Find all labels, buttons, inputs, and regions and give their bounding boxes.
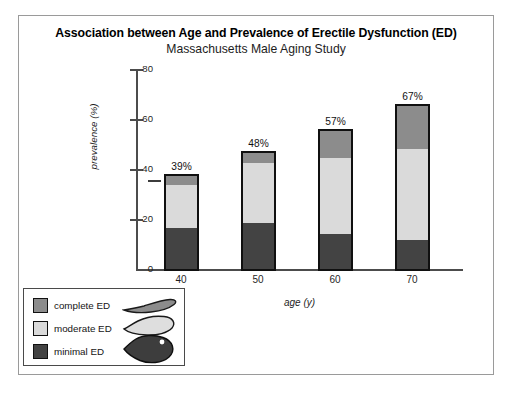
- x-axis-label-50: 50: [228, 274, 288, 285]
- segment-complete-ed-age-40: [166, 176, 197, 186]
- chart-subtitle: Massachusetts Male Aging Study: [19, 41, 493, 57]
- segment-moderate-ed-age-60: [320, 158, 351, 234]
- legend-item-minimal-ed[interactable]: minimal ED: [33, 341, 104, 361]
- bar-age-50[interactable]: 48%: [241, 151, 276, 271]
- bar-age-60[interactable]: 57%: [318, 129, 353, 272]
- legend-label-moderate-ed: moderate ED: [54, 323, 112, 334]
- x-axis-label-70: 70: [382, 274, 442, 285]
- segment-minimal-ed-age-70: [397, 240, 428, 269]
- segment-minimal-ed-age-60: [320, 234, 351, 269]
- reference-dash-annotation: [148, 180, 161, 182]
- bar-value-age-50: 48%: [229, 138, 289, 149]
- figure-frame: Association between Age and Prevalence o…: [18, 15, 494, 375]
- legend-label-minimal-ed: minimal ED: [54, 346, 104, 357]
- title-block: Association between Age and Prevalence o…: [19, 26, 493, 57]
- inflated-balloon-icon: [122, 334, 178, 368]
- segment-moderate-ed-age-40: [166, 185, 197, 228]
- x-axis-label-60: 60: [305, 274, 365, 285]
- segment-moderate-ed-age-70: [397, 149, 428, 241]
- legend-swatch-minimal-ed: [33, 344, 48, 359]
- legend-item-moderate-ed[interactable]: moderate ED: [33, 318, 112, 338]
- y-axis-label-60: 60: [113, 113, 153, 124]
- chart-title: Association between Age and Prevalence o…: [19, 26, 493, 41]
- legend-label-complete-ed: complete ED: [54, 300, 110, 311]
- x-axis-title: age (y): [136, 297, 463, 308]
- segment-minimal-ed-age-50: [243, 223, 274, 269]
- bar-value-age-70: 67%: [383, 91, 443, 102]
- legend-item-complete-ed[interactable]: complete ED: [33, 295, 110, 315]
- x-axis-label-40: 40: [151, 274, 211, 285]
- segment-complete-ed-age-50: [243, 153, 274, 163]
- legend-swatch-moderate-ed: [33, 321, 48, 336]
- plot-area: 80 60 40 20 0 prevalence (%) 39% 40 48% …: [107, 69, 463, 271]
- segment-complete-ed-age-60: [320, 131, 351, 158]
- y-axis-label-40: 40: [113, 163, 153, 174]
- bar-age-40[interactable]: 39%: [164, 174, 199, 272]
- y-axis-title: prevalence (%): [88, 104, 99, 170]
- bar-value-age-40: 39%: [152, 161, 212, 172]
- y-axis-label-20: 20: [113, 213, 153, 224]
- legend: complete ED moderate ED minimal ED: [23, 288, 185, 366]
- legend-swatch-complete-ed: [33, 298, 48, 313]
- segment-minimal-ed-age-40: [166, 228, 197, 269]
- segment-moderate-ed-age-50: [243, 163, 274, 223]
- segment-complete-ed-age-70: [397, 106, 428, 149]
- bar-age-70[interactable]: 67%: [395, 104, 430, 272]
- bar-value-age-60: 57%: [306, 116, 366, 127]
- y-axis-label-80: 80: [113, 63, 153, 74]
- y-axis-label-0: 0: [113, 263, 153, 274]
